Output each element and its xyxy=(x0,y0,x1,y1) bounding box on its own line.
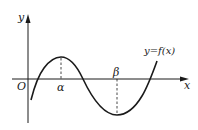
origin-label: O xyxy=(17,80,26,93)
y-axis-label: y xyxy=(17,11,25,24)
alpha-label: α xyxy=(57,81,65,94)
curve-label: y=f(x) xyxy=(143,45,175,56)
y-axis-arrow-icon xyxy=(26,14,31,23)
beta-label: β xyxy=(112,66,119,79)
function-graph: y x O α β y=f(x) xyxy=(0,0,198,130)
x-axis-label: x xyxy=(184,79,191,92)
function-curve xyxy=(31,57,157,115)
